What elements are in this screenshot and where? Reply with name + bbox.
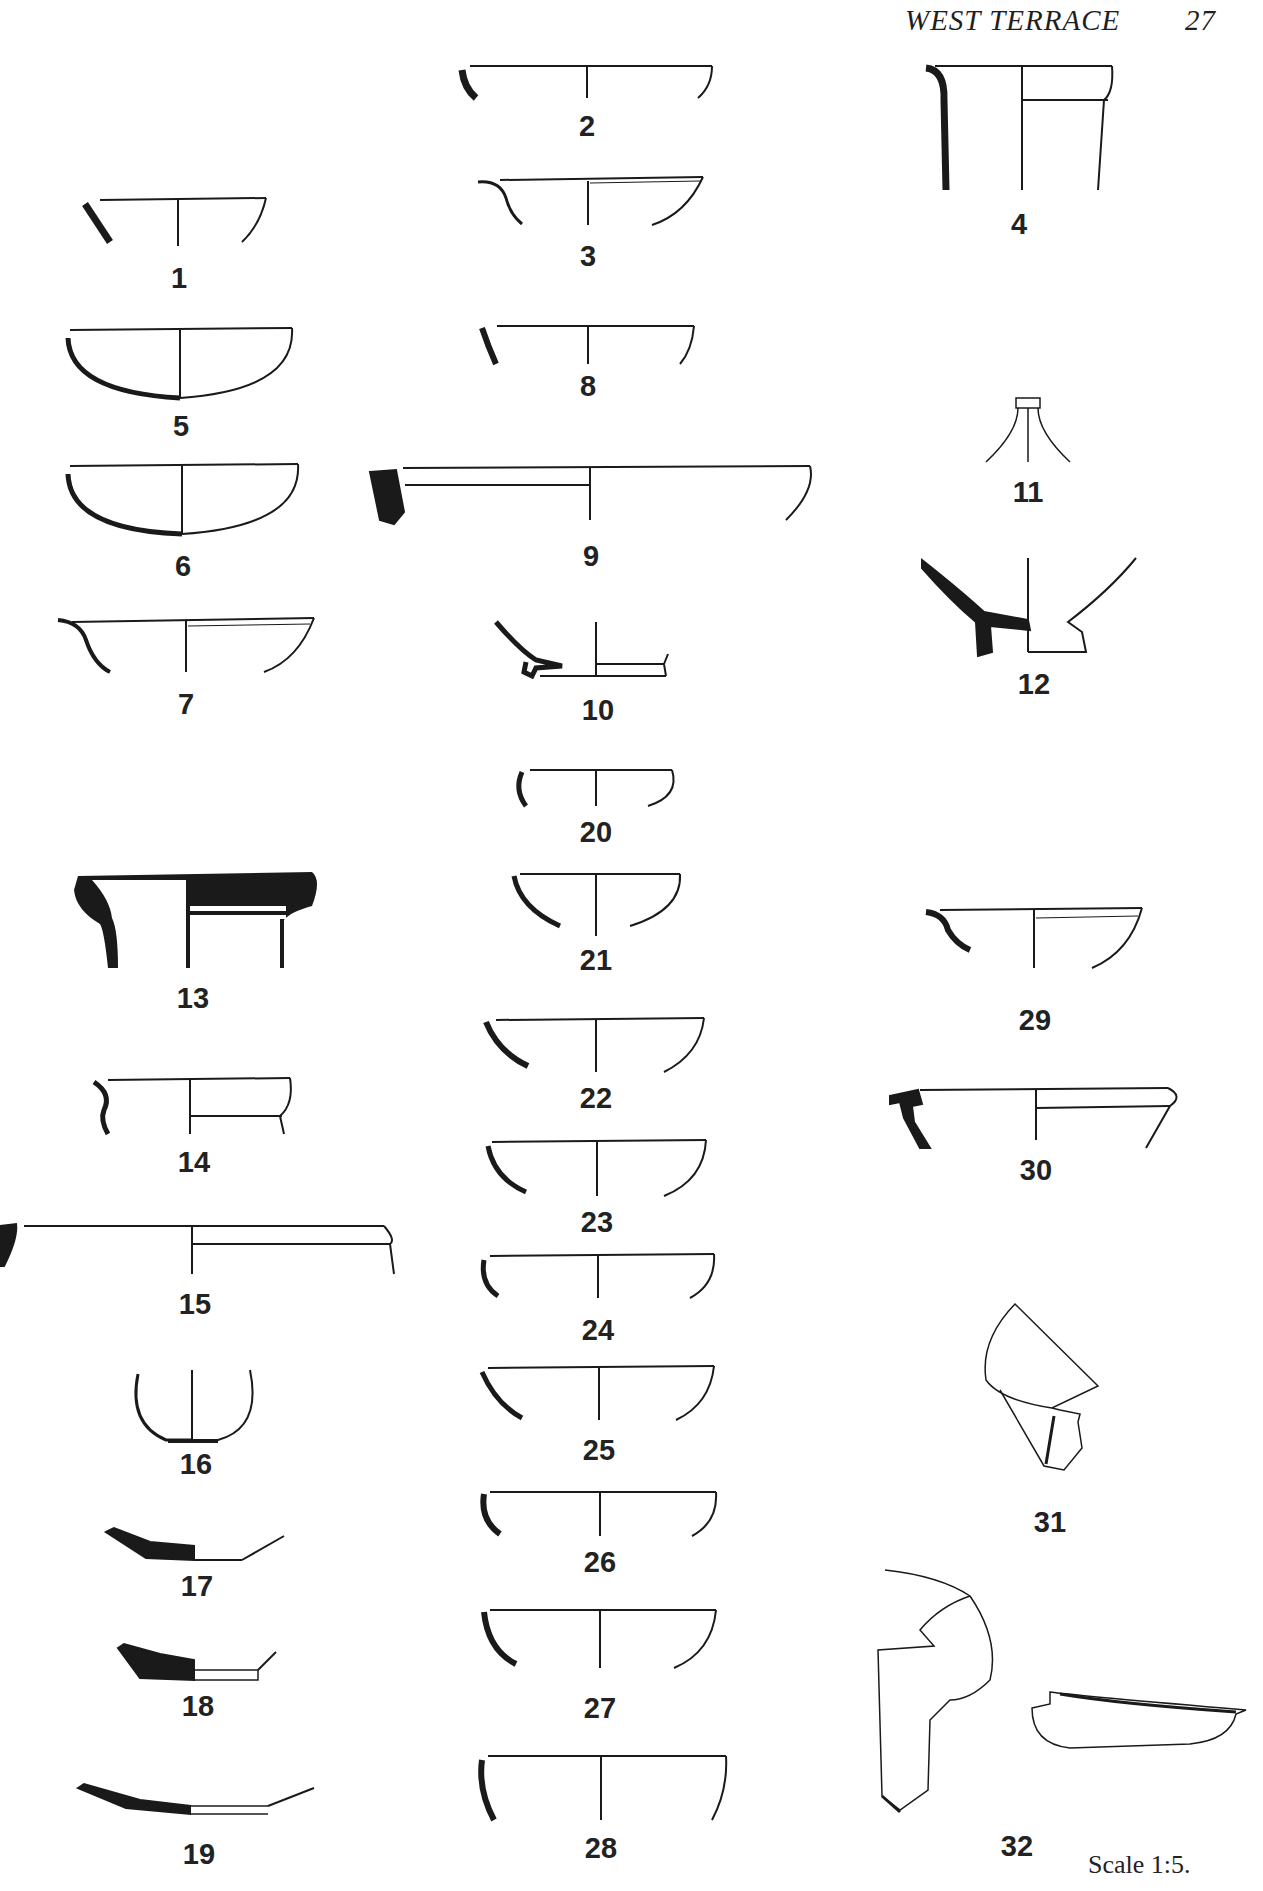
profile-27 — [484, 1610, 716, 1668]
profile-12 — [922, 558, 1136, 656]
profile-3 — [478, 177, 703, 225]
figure-number: 21 — [580, 944, 612, 977]
figure-number: 14 — [178, 1146, 210, 1179]
figure-number: 28 — [585, 1832, 617, 1865]
profile-13 — [74, 872, 317, 968]
profile-9 — [370, 466, 811, 524]
figure-number: 30 — [1020, 1154, 1052, 1187]
profile-25 — [482, 1366, 714, 1420]
profile-2 — [462, 66, 712, 98]
figure-number: 17 — [181, 1570, 213, 1603]
profile-32 — [878, 1570, 1246, 1812]
figure-number: 18 — [182, 1690, 214, 1723]
profile-28 — [481, 1756, 726, 1820]
profile-19 — [78, 1784, 314, 1814]
profile-14 — [94, 1078, 291, 1134]
figure-number: 22 — [580, 1082, 612, 1115]
profile-30 — [890, 1088, 1177, 1148]
profile-31 — [985, 1304, 1098, 1470]
figure-number: 5 — [173, 410, 189, 443]
profile-16 — [136, 1370, 253, 1442]
figure-number: 13 — [177, 982, 209, 1015]
figure-number: 32 — [1001, 1830, 1033, 1863]
profile-15 — [0, 1224, 394, 1274]
figure-number: 9 — [583, 540, 599, 573]
figure-number: 11 — [1013, 476, 1044, 509]
pottery-profile-drawings — [0, 0, 1263, 1891]
profile-10 — [496, 622, 668, 676]
profile-18 — [118, 1644, 276, 1680]
figure-number: 29 — [1019, 1004, 1051, 1037]
figure-number: 31 — [1034, 1506, 1066, 1539]
figure-number: 20 — [580, 816, 612, 849]
figure-number: 3 — [580, 240, 596, 273]
figure-number: 26 — [584, 1546, 616, 1579]
figure-number: 4 — [1011, 208, 1027, 241]
figure-number: 19 — [183, 1838, 215, 1871]
profile-22 — [486, 1018, 704, 1072]
figure-number: 7 — [178, 688, 194, 721]
profile-7 — [58, 618, 314, 672]
figure-number: 6 — [175, 550, 191, 583]
figure-number: 16 — [180, 1448, 212, 1481]
profile-24 — [483, 1254, 714, 1298]
figure-number: 15 — [179, 1288, 211, 1321]
figure-number: 24 — [582, 1314, 614, 1347]
figure-number: 2 — [579, 110, 595, 143]
profile-26 — [483, 1492, 716, 1536]
profile-5 — [68, 328, 292, 398]
figure-number: 12 — [1018, 668, 1050, 701]
profile-21 — [514, 874, 680, 936]
profile-17 — [106, 1528, 284, 1560]
figure-number: 8 — [580, 370, 596, 403]
figure-number: 10 — [582, 694, 614, 727]
profile-29 — [926, 908, 1142, 968]
profile-20 — [519, 770, 674, 806]
figure-number: 27 — [584, 1692, 616, 1725]
figure-number: 1 — [171, 262, 187, 295]
profile-11 — [986, 398, 1070, 462]
scale-note: Scale 1:5. — [1088, 1850, 1191, 1880]
profile-4 — [926, 66, 1112, 190]
profile-23 — [488, 1140, 706, 1196]
profile-1 — [85, 198, 266, 246]
figure-number: 25 — [583, 1434, 615, 1467]
profile-6 — [68, 464, 298, 534]
figure-number: 23 — [581, 1206, 613, 1239]
profile-8 — [482, 326, 694, 364]
